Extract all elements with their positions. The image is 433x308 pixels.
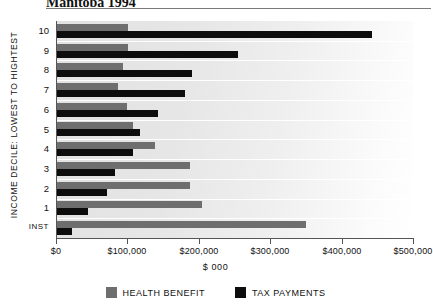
bar-health-benefit: [56, 182, 190, 189]
chart-legend: HEALTH BENEFITTAX PAYMENTS: [0, 287, 431, 298]
x-tick-label-4: $400,000: [322, 246, 361, 256]
gridline: [56, 80, 413, 81]
legend-item-tax-payments[interactable]: TAX PAYMENTS: [235, 287, 326, 298]
y-tick-label-3: 3: [23, 163, 49, 174]
y-tick-label-10: 10: [23, 25, 49, 36]
y-axis-title: INCOME DECILE: LOWEST TO HIGHTEST: [9, 18, 19, 233]
gridline: [56, 41, 413, 42]
gridline: [56, 159, 413, 160]
legend-swatch-icon: [235, 287, 246, 298]
y-axis-line: [56, 21, 57, 239]
plot-area: [56, 21, 413, 238]
y-tick-label-7: 7: [23, 84, 49, 95]
bar-tax-payments: [56, 70, 192, 77]
gridline: [56, 199, 413, 200]
gridline: [56, 120, 413, 121]
x-axis-title: $ 000: [0, 262, 431, 272]
bar-health-benefit: [56, 24, 128, 31]
y-tick-label-inst: INST: [23, 222, 49, 231]
x-tick-label-0: $0: [51, 246, 61, 256]
bar-tax-payments: [56, 169, 115, 176]
x-tick: [199, 239, 200, 244]
legend-item-health-benefit[interactable]: HEALTH BENEFIT: [106, 287, 205, 298]
x-axis-line: [56, 238, 414, 239]
bar-health-benefit: [56, 162, 190, 169]
x-tick: [342, 239, 343, 244]
bar-tax-payments: [56, 208, 88, 215]
x-tick-label-3: $300,000: [250, 246, 289, 256]
bar-tax-payments: [56, 90, 185, 97]
gridline: [56, 218, 413, 219]
bar-tax-payments: [56, 129, 140, 136]
y-tick-label-6: 6: [23, 104, 49, 115]
bar-health-benefit: [56, 44, 128, 51]
x-tick-label-2: $200,000: [179, 246, 218, 256]
bar-health-benefit: [56, 103, 127, 110]
bar-tax-payments: [56, 110, 158, 117]
bar-health-benefit: [56, 201, 202, 208]
bar-health-benefit: [56, 142, 155, 149]
y-tick-label-1: 1: [23, 202, 49, 213]
y-tick-label-5: 5: [23, 124, 49, 135]
bar-tax-payments: [56, 51, 238, 58]
bar-tax-payments: [56, 31, 372, 38]
bar-tax-payments: [56, 228, 72, 235]
y-tick-label-9: 9: [23, 45, 49, 56]
gridline: [56, 100, 413, 101]
bar-health-benefit: [56, 83, 118, 90]
y-tick-label-8: 8: [23, 64, 49, 75]
legend-label: TAX PAYMENTS: [252, 288, 326, 298]
legend-swatch-icon: [106, 287, 117, 298]
legend-label: HEALTH BENEFIT: [123, 288, 205, 298]
bar-tax-payments: [56, 149, 133, 156]
y-tick-label-4: 4: [23, 143, 49, 154]
x-tick: [270, 239, 271, 244]
x-tick-label-1: $100,000: [107, 246, 146, 256]
x-tick: [413, 239, 414, 244]
gridline: [56, 60, 413, 61]
bar-tax-payments: [56, 189, 107, 196]
x-tick: [127, 239, 128, 244]
x-tick-label-5: $500,000: [393, 246, 432, 256]
title-divider: [46, 8, 431, 9]
y-tick-label-2: 2: [23, 183, 49, 194]
bar-health-benefit: [56, 122, 133, 129]
gridline: [56, 179, 413, 180]
gridline: [56, 139, 413, 140]
x-tick: [56, 239, 57, 244]
bar-health-benefit: [56, 63, 123, 70]
bar-health-benefit: [56, 221, 306, 228]
chart-title: Manitoba 1994: [46, 0, 136, 11]
